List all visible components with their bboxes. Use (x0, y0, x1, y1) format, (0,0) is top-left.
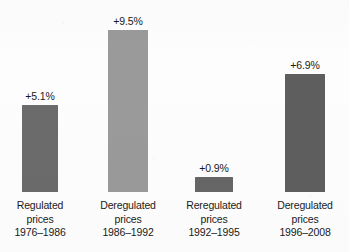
chart-plot-area: +5.1% Regulated prices 1976–1986 +9.5% D… (0, 0, 349, 252)
bar-caption-wrap: Reregulated prices 1992–1995 (170, 192, 258, 252)
caption-line-1: Reregulated (170, 199, 258, 213)
bar-caption: Regulated prices 1976–1986 (0, 199, 84, 240)
caption-line-1: Deregulated (84, 199, 172, 213)
bar-caption: Deregulated prices 1986–1992 (84, 199, 172, 240)
caption-line-3: 1996–2008 (261, 226, 349, 240)
bar-chart-figure: +5.1% Regulated prices 1976–1986 +9.5% D… (0, 0, 349, 252)
bar-value-label: +0.9% (170, 162, 258, 174)
bar-value-label: +9.5% (84, 15, 172, 27)
bar-rect (285, 74, 325, 192)
bar-caption: Deregulated prices 1996–2008 (261, 199, 349, 240)
bar-rect (22, 105, 58, 192)
caption-line-2: prices (170, 213, 258, 227)
bar-caption: Reregulated prices 1992–1995 (170, 199, 258, 240)
caption-line-1: Deregulated (261, 199, 349, 213)
bar-caption-wrap: Deregulated prices 1986–1992 (84, 192, 172, 252)
caption-line-2: prices (261, 213, 349, 227)
caption-line-2: prices (0, 213, 84, 227)
caption-line-3: 1986–1992 (84, 226, 172, 240)
caption-line-1: Regulated (0, 199, 84, 213)
caption-line-3: 1976–1986 (0, 226, 84, 240)
caption-line-3: 1992–1995 (170, 226, 258, 240)
bar-caption-wrap: Deregulated prices 1996–2008 (261, 192, 349, 252)
bar-rect (108, 30, 148, 192)
bar-value-label: +6.9% (261, 59, 349, 71)
bar-caption-wrap: Regulated prices 1976–1986 (0, 192, 84, 252)
bar-value-label: +5.1% (0, 90, 84, 102)
bar-rect (195, 177, 233, 192)
caption-line-2: prices (84, 213, 172, 227)
